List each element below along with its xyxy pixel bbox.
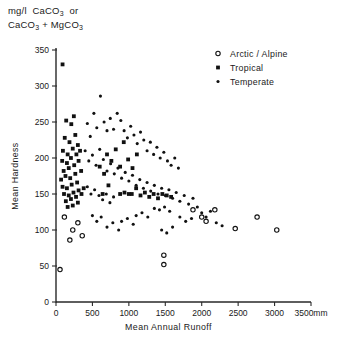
y-tick-label: 0: [44, 297, 49, 307]
data-point: [61, 63, 65, 67]
data-point: [124, 171, 127, 174]
data-point: [221, 224, 224, 227]
data-point: [178, 215, 181, 218]
data-point: [204, 219, 208, 223]
data-point: [84, 149, 87, 152]
x-tick-label: 0: [54, 308, 59, 318]
x-tick-label: 2000: [192, 308, 211, 318]
data-point: [162, 253, 166, 257]
x-tick-label: 3000: [265, 308, 284, 318]
data-point: [74, 195, 78, 199]
data-point: [164, 194, 167, 197]
y-tick-label: 100: [35, 225, 49, 235]
data-point: [69, 122, 73, 126]
data-point: [105, 192, 108, 195]
data-point: [129, 125, 132, 128]
data-point: [173, 156, 176, 159]
x-axis-title: Mean Annual Runoff: [125, 322, 212, 332]
data-point: [76, 221, 80, 225]
series-arctic-alpine: [58, 208, 279, 272]
data-point: [156, 192, 159, 195]
data-point: [167, 188, 170, 191]
data-point: [142, 138, 145, 141]
data-point: [107, 183, 111, 187]
data-point: [275, 228, 279, 232]
data-point: [65, 186, 69, 190]
data-point: [105, 153, 109, 157]
data-point: [135, 184, 138, 187]
data-point: [73, 133, 77, 137]
scatter-plot: 0501001502002503003500500100015002000250…: [0, 0, 341, 338]
data-point: [171, 197, 174, 200]
axis-titles: Mean HardnessMean Annual Runoff: [10, 142, 212, 332]
data-point: [64, 119, 68, 123]
data-point: [77, 189, 81, 193]
data-point: [82, 186, 86, 190]
data-point: [131, 174, 134, 177]
data-point: [102, 158, 105, 161]
figure-container: mg/l CaCO3 orCaCO3 + MgCO3 0501001502002…: [0, 0, 341, 338]
data-point: [62, 192, 66, 196]
x-tick-label: 500: [85, 308, 99, 318]
data-point: [76, 143, 80, 147]
series-tropical: [59, 63, 173, 209]
data-point: [126, 136, 129, 139]
data-point: [118, 192, 122, 196]
data-point: [170, 164, 173, 167]
y-tick-label: 50: [40, 261, 50, 271]
data-point: [213, 208, 217, 212]
data-point: [75, 153, 79, 157]
data-point: [127, 192, 131, 196]
data-point: [123, 129, 126, 132]
data-point: [200, 211, 203, 214]
data-point: [60, 159, 64, 163]
data-point: [135, 153, 139, 157]
data-point: [72, 191, 76, 195]
data-point: [135, 214, 138, 217]
data-point: [116, 112, 119, 115]
data-point: [162, 151, 165, 154]
data-point: [105, 169, 108, 172]
data-point: [159, 156, 162, 159]
data-point: [109, 117, 112, 120]
data-point: [62, 215, 66, 219]
data-point: [160, 228, 163, 231]
data-point: [97, 194, 100, 197]
data-point: [134, 186, 138, 190]
data-point: [58, 267, 62, 271]
data-point: [72, 114, 76, 118]
y-axis-title: Mean Hardness: [10, 142, 20, 209]
data-point: [146, 149, 149, 152]
data-point: [165, 231, 168, 234]
data-point: [143, 191, 147, 195]
data-point: [71, 228, 75, 232]
axis-ticks: [52, 50, 311, 306]
data-point: [205, 215, 208, 218]
data-point: [63, 136, 67, 140]
data-point: [61, 149, 65, 153]
data-points: [58, 63, 279, 272]
data-point: [64, 174, 68, 178]
data-point: [93, 188, 96, 191]
legend-label-arctic: Arctic / Alpine: [230, 49, 288, 59]
data-point: [153, 184, 156, 187]
data-point: [166, 159, 169, 162]
data-point: [152, 192, 156, 196]
data-point: [64, 199, 68, 203]
data-point: [147, 195, 151, 199]
data-point: [196, 205, 199, 208]
data-point: [162, 262, 166, 266]
data-point: [117, 228, 120, 231]
data-point: [132, 133, 135, 136]
data-point: [113, 172, 116, 175]
data-point: [146, 181, 149, 184]
data-point: [66, 205, 70, 209]
data-point: [65, 161, 69, 165]
y-tick-label: 200: [35, 153, 49, 163]
data-point: [120, 220, 123, 223]
legend: Arctic / AlpineTropicalTemperate: [216, 49, 288, 87]
series-temperate: [84, 95, 224, 235]
data-point: [153, 207, 156, 210]
data-point: [155, 146, 158, 149]
data-point: [71, 204, 75, 208]
